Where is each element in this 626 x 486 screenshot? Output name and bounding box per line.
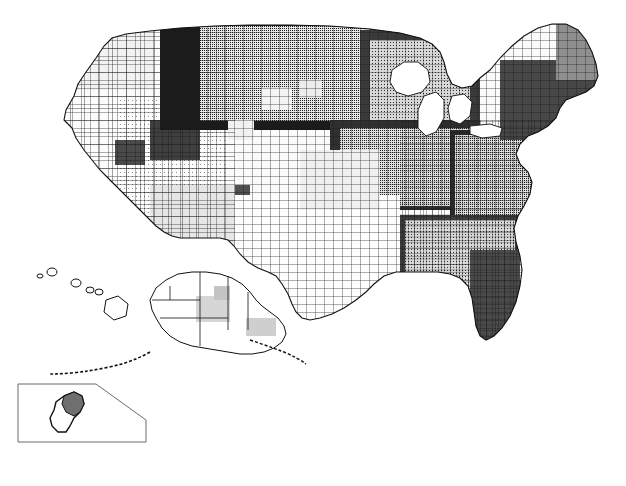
hawaii-oahu <box>71 279 81 287</box>
hawaii-molokai <box>86 287 94 293</box>
hawaii-kauai <box>47 268 57 276</box>
figure-canvas: Selected Counties <box>0 0 626 486</box>
lake-erie <box>470 124 502 138</box>
us-county-choropleth-map <box>0 0 626 486</box>
hawaii-niihau <box>37 274 43 278</box>
hawaii-maui <box>95 289 103 295</box>
alaska-shaded-borough-c <box>246 318 276 336</box>
